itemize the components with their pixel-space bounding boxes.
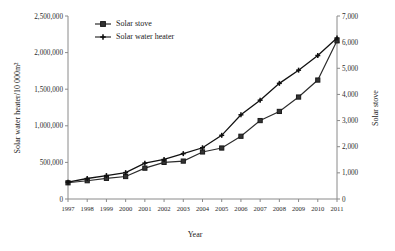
data-point-marker [201, 147, 203, 149]
x-tick-label: 2006 [234, 205, 248, 212]
data-point-marker [239, 134, 243, 138]
data-point-marker [67, 181, 69, 183]
x-tick-label: 2008 [273, 205, 287, 212]
data-point-marker [163, 158, 165, 160]
data-point-marker [221, 134, 223, 136]
x-tick-label: 1997 [61, 205, 75, 212]
data-point-marker [182, 152, 184, 154]
y-axis-title-left: Solar water heater/10 000m² [13, 62, 22, 154]
x-tick-label: 2005 [215, 205, 229, 212]
data-point-marker [181, 159, 185, 163]
y-tick-label-left: 0 [59, 196, 63, 204]
dual-axis-line-chart: 0500,0001,000,0001,500,0002,000,0002,500… [0, 0, 395, 251]
x-tick-label: 2004 [196, 205, 210, 212]
y-axis-title-right: Solar stove [371, 90, 380, 126]
x-tick-label: 2000 [119, 205, 133, 212]
data-point-marker [336, 37, 338, 39]
chart-figure: 0500,0001,000,0001,500,0002,000,0002,500… [0, 0, 395, 251]
data-point-marker [102, 36, 105, 39]
series-line [68, 41, 337, 183]
y-tick-label-left: 2,000,000 [34, 49, 63, 57]
x-tick-label: 2009 [292, 205, 306, 212]
data-point-marker [258, 118, 262, 122]
data-point-marker [317, 54, 319, 56]
x-tick-label: 2007 [254, 205, 268, 212]
legend: Solar stoveSolar water heater [95, 19, 175, 41]
data-point-marker [296, 95, 300, 99]
x-tick-label: 2002 [157, 205, 170, 212]
data-point-marker [316, 78, 320, 82]
y-tick-label-right: 2,000 [342, 143, 359, 151]
data-point-marker [143, 166, 147, 170]
x-tick-label: 2010 [311, 205, 325, 212]
y-tick-label-right: 1,000 [342, 169, 359, 177]
y-tick-label-left: 500,000 [40, 159, 64, 167]
y-tick-label-left: 1,000,000 [34, 122, 63, 130]
y-tick-label-right: 4,000 [342, 91, 359, 99]
y-tick-label-right: 5,000 [342, 65, 359, 73]
data-point-marker [124, 171, 126, 173]
y-tick-label-right: 6,000 [342, 39, 359, 47]
data-point-marker [200, 150, 204, 154]
data-point-marker [278, 82, 280, 84]
y-tick-label-right: 7,000 [342, 13, 359, 21]
x-tick-label: 1998 [81, 205, 95, 212]
x-axis-title: Year [188, 230, 203, 239]
y-tick-label-left: 1,500,000 [34, 86, 63, 94]
data-point-marker [144, 162, 146, 164]
data-point-marker [220, 146, 224, 150]
x-tick-label: 1999 [100, 205, 114, 212]
data-point-marker [105, 174, 107, 176]
y-tick-label-right: 0 [342, 196, 346, 204]
x-tick-label: 2011 [331, 205, 344, 212]
x-tick-label: 2003 [177, 205, 191, 212]
data-point-marker [240, 114, 242, 116]
series-solar-water-heater [66, 35, 340, 184]
series-solar-stove [66, 39, 339, 185]
data-point-marker [86, 177, 88, 179]
series-line [68, 38, 337, 182]
x-tick-label: 2001 [138, 205, 151, 212]
legend-label: Solar water heater [116, 32, 175, 41]
data-point-marker [101, 22, 106, 27]
data-point-marker [277, 109, 281, 113]
data-point-marker [297, 69, 299, 71]
data-point-marker [259, 99, 261, 101]
legend-label: Solar stove [116, 19, 152, 28]
y-tick-label-right: 3,000 [342, 117, 359, 125]
y-tick-label-left: 2,500,000 [34, 13, 63, 21]
